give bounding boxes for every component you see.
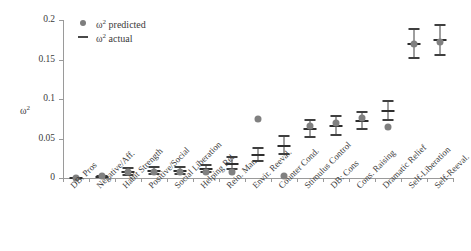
error-bar-cap (305, 119, 316, 121)
x-tick-mark (401, 178, 402, 182)
y-tick-label-wrap: 0.15 (0, 55, 58, 65)
x-tick-mark (375, 178, 376, 182)
error-bar-cap (409, 57, 420, 59)
error-bar-cap (305, 136, 316, 138)
y-tick-mark (59, 60, 63, 61)
error-bar-cap (279, 135, 290, 137)
error-bar-cap (435, 24, 446, 26)
filled-circle-icon (80, 20, 86, 26)
y-tick-label: 0.2 (43, 15, 55, 25)
x-tick-mark (271, 178, 272, 182)
x-tick-mark (245, 178, 246, 182)
y-tick-label-wrap: 0.2 (0, 15, 58, 25)
x-tick-mark (141, 178, 142, 182)
y-tick-label: 0 (50, 173, 55, 183)
predicted-value-point (359, 114, 366, 121)
error-bar-cap (357, 111, 368, 113)
y-tick-label: 0.15 (38, 55, 55, 65)
error-bar-cap (383, 119, 394, 121)
error-bar-cap (357, 128, 368, 130)
x-tick-mark (193, 178, 194, 182)
y-axis-title: ω2 (20, 103, 30, 116)
y-tick-label: 0.1 (43, 94, 55, 104)
error-bar-cap (331, 115, 342, 117)
legend-label-actual: ω2 actual (96, 30, 132, 45)
y-tick-label: 0.05 (38, 134, 55, 144)
predicted-value-point (307, 122, 314, 129)
y-tick-label-wrap: 0 (0, 173, 58, 183)
x-tick-mark (349, 178, 350, 182)
x-tick-mark (323, 178, 324, 182)
predicted-value-point (255, 115, 262, 122)
x-tick-mark (167, 178, 168, 182)
y-tick-mark (59, 139, 63, 140)
predicted-value-point (333, 120, 340, 127)
y-tick-mark (59, 20, 63, 21)
error-bar-cap (409, 28, 420, 30)
x-tick-mark (427, 178, 428, 182)
predicted-value-point (437, 39, 444, 46)
actual-value-marker (278, 145, 291, 147)
predicted-value-point (385, 123, 392, 130)
predicted-value-point (411, 40, 418, 47)
actual-value-marker (382, 110, 395, 112)
error-bar-cap (331, 134, 342, 136)
error-bar-cap (435, 54, 446, 56)
y-tick-label-wrap: 0.05 (0, 134, 58, 144)
x-tick-mark (297, 178, 298, 182)
y-tick-mark (59, 99, 63, 100)
x-tick-mark (63, 178, 64, 182)
dash-marker-icon (78, 36, 88, 38)
x-tick-mark (453, 178, 454, 182)
y-tick-label-wrap: 0.1 (0, 94, 58, 104)
x-tick-mark (89, 178, 90, 182)
error-bar-cap (383, 100, 394, 102)
error-bar-cap (253, 147, 264, 149)
y-axis-line (63, 20, 64, 179)
x-tick-mark (219, 178, 220, 182)
x-tick-mark (115, 178, 116, 182)
